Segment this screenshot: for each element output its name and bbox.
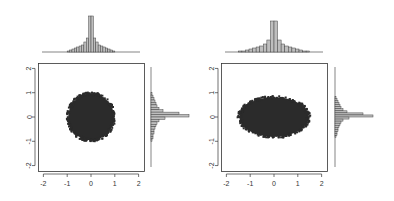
histogram-bar — [256, 47, 260, 52]
point — [113, 115, 115, 117]
y-tick-label: -2 — [209, 162, 216, 168]
point — [80, 135, 82, 137]
histogram-bar — [151, 132, 154, 134]
histogram-bar — [288, 47, 292, 52]
x-tick-label: -2 — [223, 180, 229, 187]
point — [299, 104, 301, 106]
point — [302, 105, 304, 107]
point — [101, 138, 103, 140]
point — [96, 138, 98, 140]
point — [74, 131, 76, 133]
marginal-histogram-right — [151, 67, 189, 167]
histogram-bar — [281, 44, 285, 52]
histogram-bar — [335, 129, 338, 131]
histogram-bar — [335, 109, 343, 111]
histogram-bar — [151, 112, 179, 114]
histogram-bar — [249, 49, 253, 52]
histogram-bar — [93, 38, 95, 52]
x-tick-label: -2 — [40, 180, 46, 187]
histogram-bar — [103, 47, 105, 52]
histogram-bar — [151, 122, 157, 124]
histogram-bar — [151, 107, 159, 109]
point — [78, 134, 80, 136]
point — [243, 105, 245, 107]
point — [97, 93, 99, 95]
histogram-bar — [242, 51, 246, 52]
scatter-panel-ellipse: -2-1012-2-1012 — [209, 21, 374, 187]
point — [257, 134, 259, 136]
histogram-bar — [84, 42, 86, 52]
point — [299, 129, 301, 131]
marginal-histogram-top — [42, 16, 140, 52]
histogram-bar — [112, 51, 114, 52]
point — [239, 111, 241, 113]
histogram-bar — [263, 44, 267, 52]
histogram-bar — [335, 136, 336, 138]
histogram-bar — [89, 16, 91, 52]
point — [278, 137, 280, 139]
scatter-points — [237, 95, 312, 138]
histogram-bar — [303, 51, 307, 52]
histogram-bar — [335, 98, 337, 100]
histogram-bar — [299, 50, 303, 52]
point — [76, 134, 78, 136]
point — [89, 92, 91, 94]
point — [307, 122, 309, 124]
marginal-histogram-right — [335, 67, 373, 167]
histogram-bar — [96, 42, 98, 52]
point — [92, 93, 94, 95]
point — [269, 98, 271, 100]
point — [243, 127, 245, 129]
x-axis: -2-1012 — [40, 174, 140, 187]
histogram-bar — [335, 105, 340, 107]
point — [278, 134, 280, 136]
histogram-bar — [72, 49, 74, 52]
histogram-bar — [151, 93, 152, 95]
histogram-bar — [335, 111, 347, 113]
point — [241, 120, 243, 122]
histogram-bar — [151, 124, 156, 126]
point — [308, 120, 310, 122]
histogram-bar — [151, 117, 165, 119]
histogram-bar — [151, 95, 153, 97]
point — [89, 94, 91, 96]
y-axis: -2-1012 — [209, 66, 219, 168]
histogram-bar — [151, 127, 155, 129]
point — [73, 103, 75, 105]
point — [105, 135, 107, 137]
histogram-bar — [151, 102, 156, 104]
histogram-bar — [151, 134, 153, 136]
point — [243, 108, 245, 110]
point — [110, 108, 112, 110]
point — [248, 128, 250, 130]
x-tick-label: 0 — [272, 180, 276, 187]
y-tick-label: 2 — [26, 66, 33, 70]
histogram-bar — [335, 96, 336, 98]
point — [73, 101, 75, 103]
histogram-bar — [270, 21, 274, 52]
point — [268, 136, 270, 138]
histogram-bar — [274, 21, 278, 52]
point — [260, 99, 262, 101]
marginal-histogram-top — [225, 21, 323, 52]
point — [271, 96, 273, 98]
histogram-bar — [151, 110, 163, 112]
point — [239, 114, 241, 116]
y-tick-label: -1 — [26, 138, 33, 144]
histogram-bar — [335, 123, 340, 125]
histogram-bar — [260, 46, 264, 52]
histogram-bar — [151, 129, 154, 131]
y-tick-label: -1 — [209, 138, 216, 144]
point — [308, 117, 310, 119]
point — [241, 109, 243, 111]
point — [306, 108, 308, 110]
point — [84, 138, 86, 140]
histogram-bar — [335, 103, 339, 105]
point — [250, 100, 252, 102]
x-tick-label: 1 — [296, 180, 300, 187]
point — [254, 132, 256, 134]
point — [98, 136, 100, 138]
x-tick-label: -1 — [247, 180, 253, 187]
point — [112, 110, 114, 112]
point — [82, 139, 84, 141]
